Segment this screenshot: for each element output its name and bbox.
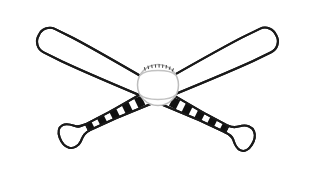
baseball xyxy=(138,65,179,106)
crossed-bats-illustration xyxy=(0,0,315,182)
illustration-canvas: Crossed Baseball Bats with Baseball xyxy=(0,0,315,182)
